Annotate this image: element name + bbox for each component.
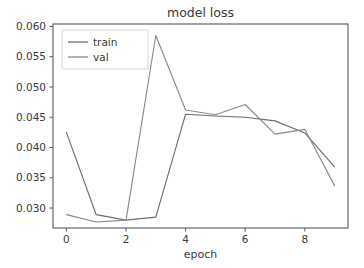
x-axis-label: epoch — [184, 248, 218, 261]
chart-title: model loss — [167, 5, 234, 20]
y-axis-ticks: 0.0300.0350.0400.0450.0500.0550.060 — [16, 20, 53, 214]
y-tick-label: 0.035 — [16, 171, 46, 183]
y-tick-label: 0.050 — [16, 81, 46, 93]
x-tick-label: 6 — [242, 233, 249, 245]
y-tick-label: 0.045 — [16, 111, 46, 123]
y-tick-label: 0.060 — [16, 20, 46, 32]
model-loss-line-chart: model loss 0.0300.0350.0400.0450.0500.05… — [0, 0, 364, 268]
chart-legend: train val — [62, 30, 148, 69]
legend-label-val: val — [93, 51, 109, 63]
y-tick-label: 0.055 — [16, 50, 46, 62]
x-axis-ticks: 02468 — [63, 228, 308, 245]
legend-label-train: train — [93, 36, 117, 48]
x-tick-label: 2 — [123, 233, 130, 245]
x-tick-label: 0 — [63, 233, 70, 245]
y-tick-label: 0.030 — [16, 202, 46, 214]
y-tick-label: 0.040 — [16, 141, 46, 153]
x-tick-label: 8 — [301, 233, 308, 245]
figure-canvas: model loss 0.0300.0350.0400.0450.0500.05… — [0, 0, 364, 268]
x-tick-label: 4 — [182, 233, 189, 245]
